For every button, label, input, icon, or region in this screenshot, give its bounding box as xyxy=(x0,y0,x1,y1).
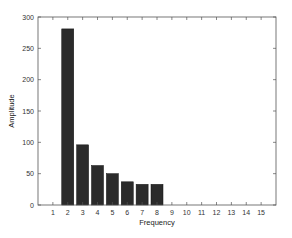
bar-8 xyxy=(151,184,163,205)
y-axis-label: Amplitude xyxy=(7,94,16,127)
x-tick-label: 6 xyxy=(125,209,129,216)
bar-7 xyxy=(136,184,148,205)
y-tick-label: 300 xyxy=(22,14,34,21)
x-tick-label: 7 xyxy=(140,209,144,216)
x-tick-label: 5 xyxy=(110,209,114,216)
x-tick-label: 14 xyxy=(242,209,250,216)
bar-3 xyxy=(77,145,89,205)
x-tick-label: 3 xyxy=(81,209,85,216)
bar-6 xyxy=(121,182,133,205)
x-tick-label: 15 xyxy=(257,209,265,216)
x-tick-label: 12 xyxy=(213,209,221,216)
x-tick-label: 2 xyxy=(66,209,70,216)
bars xyxy=(62,29,163,205)
bar-5 xyxy=(106,174,118,205)
x-tick-label: 10 xyxy=(183,209,191,216)
y-axis: 050100150200250300 xyxy=(22,14,276,209)
y-tick-label: 150 xyxy=(22,108,34,115)
x-tick-label: 9 xyxy=(170,209,174,216)
x-tick-label: 1 xyxy=(51,209,55,216)
x-tick-label: 13 xyxy=(227,209,235,216)
x-tick-label: 11 xyxy=(198,209,205,216)
y-tick-label: 100 xyxy=(22,139,34,146)
x-tick-label: 4 xyxy=(96,209,100,216)
bar-2 xyxy=(62,29,74,205)
x-tick-label: 8 xyxy=(155,209,159,216)
y-tick-label: 0 xyxy=(30,202,34,209)
y-tick-label: 200 xyxy=(22,76,34,83)
x-axis-label: Frequency xyxy=(139,218,175,227)
y-tick-label: 50 xyxy=(26,170,34,177)
bar-chart: 050100150200250300 123456789101112131415… xyxy=(0,0,292,238)
y-tick-label: 250 xyxy=(22,45,34,52)
bar-4 xyxy=(92,166,104,205)
